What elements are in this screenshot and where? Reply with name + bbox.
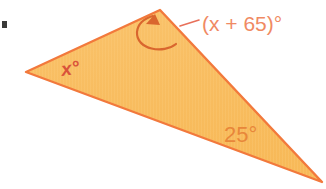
triangle-fill-wash [26,10,322,182]
angle-label-x-plus-65: (x + 65)° [202,12,282,35]
page-mark [2,21,7,28]
leader-line [180,20,199,26]
angle-label-x: x° [59,57,81,81]
triangle-diagram-canvas: x° (x + 65)° 25° [0,0,326,189]
angle-label-25: 25° [224,122,257,147]
geometry-figure: x° (x + 65)° 25° [0,0,326,189]
